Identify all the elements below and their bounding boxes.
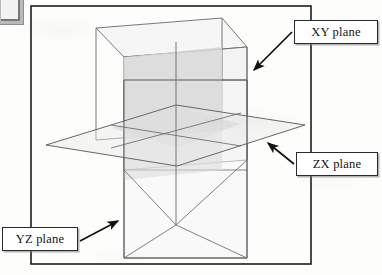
arrow-xy-plane — [254, 32, 292, 70]
arrow-yz-plane — [80, 221, 118, 241]
label-xy-plane-text: XY plane — [311, 25, 360, 40]
label-yz-plane-text: YZ plane — [16, 232, 64, 247]
figure-page: XY plane ZX plane YZ plane — [0, 0, 382, 275]
label-zx-plane-text: ZX plane — [313, 157, 361, 172]
label-yz-plane: YZ plane — [2, 227, 78, 251]
zx-plane — [46, 105, 305, 166]
label-xy-plane: XY plane — [294, 20, 378, 44]
arrow-zx-plane — [268, 143, 294, 164]
label-zx-plane: ZX plane — [296, 152, 378, 176]
